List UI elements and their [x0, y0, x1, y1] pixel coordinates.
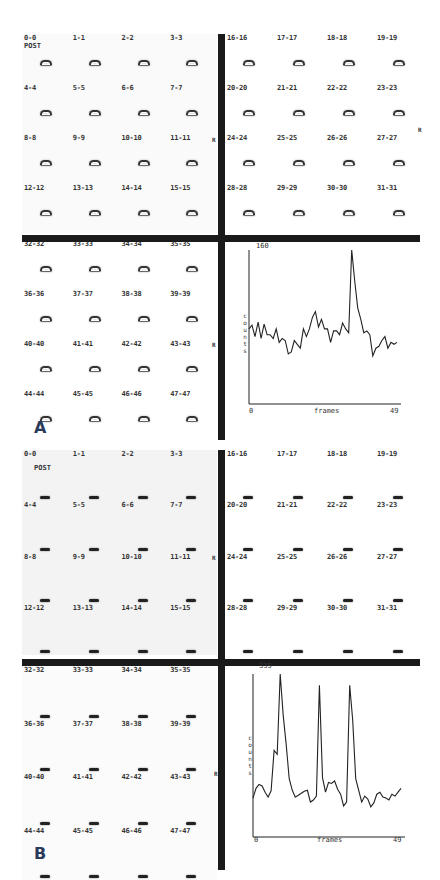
activity-blob: [89, 875, 99, 878]
chart-y-max-label: 160: [256, 242, 269, 250]
frame-label: 34-34: [122, 666, 142, 674]
frame-label: 3-3: [170, 450, 182, 458]
frame-cell: 26-26: [325, 553, 375, 604]
frame-label: 40-40: [24, 773, 44, 781]
frame-cell: 41-41: [71, 340, 120, 390]
frame-cell: 40-40: [22, 773, 71, 827]
activity-blob: [138, 768, 148, 771]
frame-label: 38-38: [122, 290, 142, 298]
frame-cell: 4-4: [22, 84, 71, 134]
activity-blob: [89, 60, 101, 66]
frame-cell: 12-12: [22, 184, 71, 234]
quadrant-a-bottom-left: 32-3233-3334-3435-3536-3637-3738-3839-39…: [22, 240, 217, 440]
frame-label: 3-3: [170, 34, 182, 42]
line-plot: [245, 662, 425, 852]
frame-label: 9-9: [73, 553, 85, 561]
activity-blob: [186, 60, 198, 66]
activity-blob: [186, 160, 198, 166]
frame-label: 42-42: [122, 773, 142, 781]
activity-blob: [186, 548, 196, 551]
activity-blob: [393, 60, 405, 66]
activity-blob: [138, 416, 150, 422]
frame-label: 7-7: [170, 501, 182, 509]
frame-cell: 16-16: [225, 450, 275, 501]
chart-y-axis-label: counts: [247, 734, 253, 776]
activity-blob: [40, 110, 52, 116]
frame-cell: 6-6: [120, 84, 169, 134]
activity-blob: [40, 366, 52, 372]
frame-label: 15-15: [170, 184, 190, 192]
frame-label: 30-30: [327, 604, 347, 612]
frame-label: 44-44: [24, 390, 44, 398]
activity-blob: [40, 650, 50, 653]
frame-cell: 21-21: [275, 501, 325, 552]
frame-cell: 22-22: [325, 501, 375, 552]
post-label: POST: [24, 42, 41, 50]
activity-blob: [186, 768, 196, 771]
activity-blob: [243, 210, 255, 216]
frame-cell: 17-17: [275, 34, 325, 84]
frame-cell: 45-45: [71, 827, 120, 880]
activity-blob: [138, 875, 148, 878]
activity-blob: [40, 160, 52, 166]
frame-label: 13-13: [73, 604, 93, 612]
frame-cell: 29-29: [275, 604, 325, 655]
activity-blob: [40, 60, 52, 66]
frame-label: 14-14: [122, 604, 142, 612]
activity-blob: [293, 496, 303, 499]
activity-blob: [40, 266, 52, 272]
frame-cell: 9-9: [71, 134, 120, 184]
frame-label: 47-47: [170, 390, 190, 398]
activity-blob: [243, 60, 255, 66]
frame-cell: 37-37: [71, 720, 120, 774]
frame-cell: 1-1: [71, 34, 120, 84]
frame-label: 29-29: [277, 184, 297, 192]
activity-blob: [138, 110, 150, 116]
orientation-marker-r: R: [212, 341, 216, 348]
frame-cell: 36-36: [22, 290, 71, 340]
frame-label: 37-37: [73, 720, 93, 728]
frame-cell: 43-43: [168, 773, 217, 827]
activity-blob: [293, 60, 305, 66]
frame-cell: 2-2: [120, 34, 169, 84]
frame-label: 17-17: [277, 450, 297, 458]
frame-cell: 33-33: [71, 240, 120, 290]
frame-label: 8-8: [24, 134, 36, 142]
frame-cell: 21-21: [275, 84, 325, 134]
frame-cell: 44-44: [22, 827, 71, 880]
activity-blob: [243, 650, 253, 653]
chart-x-axis-label: frames: [317, 836, 342, 844]
frame-cell: 17-17: [275, 450, 325, 501]
frame-label: 26-26: [327, 134, 347, 142]
frame-label: 41-41: [73, 773, 93, 781]
activity-blob: [243, 599, 253, 602]
activity-blob: [89, 548, 99, 551]
frame-label: 24-24: [227, 553, 247, 561]
frame-label: 41-41: [73, 340, 93, 348]
frame-label: 4-4: [24, 501, 36, 509]
panel-label: B: [34, 844, 46, 863]
frame-cell: 42-42: [120, 340, 169, 390]
frame-label: 39-39: [170, 290, 190, 298]
frame-cell: 41-41: [71, 773, 120, 827]
activity-blob: [40, 599, 50, 602]
frame-cell: 9-9: [71, 553, 120, 604]
frame-cell: 27-27: [375, 134, 425, 184]
frame-cell: 18-18: [325, 450, 375, 501]
activity-blob: [138, 266, 150, 272]
frame-label: 12-12: [24, 184, 44, 192]
frame-cell: 46-46: [120, 827, 169, 880]
activity-blob: [89, 160, 101, 166]
activity-blob: [186, 110, 198, 116]
activity-blob: [138, 60, 150, 66]
frame-cell: 27-27: [375, 553, 425, 604]
activity-blob: [243, 496, 253, 499]
activity-blob: [40, 715, 50, 718]
frame-label: 0-0: [24, 450, 36, 458]
chart-x-tick-min: 0: [254, 836, 258, 844]
frame-cell: 19-19: [375, 450, 425, 501]
frame-cell: 25-25: [275, 553, 325, 604]
frame-label: 18-18: [327, 34, 347, 42]
frame-label: 16-16: [227, 34, 247, 42]
frame-label: 21-21: [277, 501, 297, 509]
